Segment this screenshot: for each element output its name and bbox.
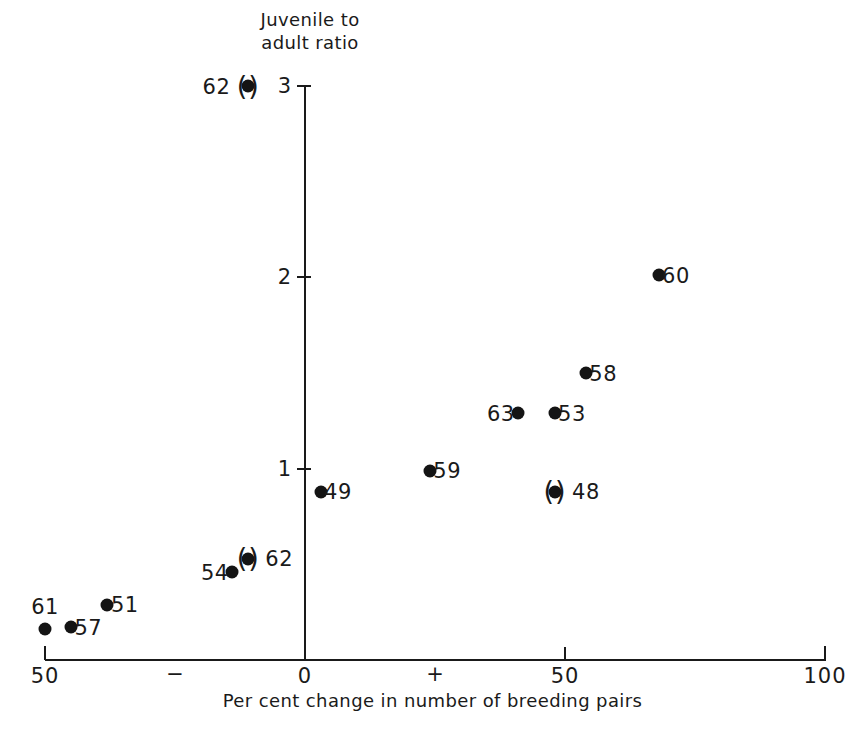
scatter-plot-figure: Juvenile to adult ratio ()62605863535949… xyxy=(0,0,865,735)
y-axis-tick-label: 2 xyxy=(270,265,292,289)
data-point: 58 xyxy=(579,367,592,380)
data-point: ()62 xyxy=(241,80,254,93)
close-paren-glyph: ) xyxy=(555,478,566,505)
data-point-label: 49 xyxy=(324,480,352,504)
y-axis-tick xyxy=(297,468,311,470)
y-axis-title-line1: Juvenile to xyxy=(215,8,405,31)
data-point-label: 63 xyxy=(487,401,515,425)
data-point-marker xyxy=(39,623,52,636)
y-axis-tick xyxy=(297,276,311,278)
data-point: 53 xyxy=(548,407,561,420)
data-point: 59 xyxy=(423,464,436,477)
y-axis-tick-label: 3 xyxy=(270,74,292,98)
x-axis-tick-label: 0 xyxy=(298,664,312,688)
data-point: 60 xyxy=(652,269,665,282)
x-axis-title: Per cent change in number of breeding pa… xyxy=(0,690,865,711)
data-point-label: 61 xyxy=(31,595,59,619)
data-point-label: 53 xyxy=(558,401,586,425)
data-point-label: 48 xyxy=(572,480,600,504)
data-point: 63 xyxy=(512,407,525,420)
x-axis-tick-label: 50 xyxy=(551,664,580,688)
x-axis-tick xyxy=(824,646,826,660)
x-axis-sign-label: − xyxy=(166,662,184,686)
data-point-label: 51 xyxy=(111,593,139,617)
y-axis-title: Juvenile to adult ratio xyxy=(215,8,405,54)
data-point-label: 58 xyxy=(589,361,617,385)
close-paren-glyph: ) xyxy=(248,545,259,572)
x-axis-tick xyxy=(304,647,306,660)
open-paren-glyph: ( xyxy=(237,72,248,99)
data-point: ()62 xyxy=(241,552,254,565)
data-point-label: 59 xyxy=(433,459,461,483)
x-axis-tick xyxy=(564,647,566,660)
x-axis-tick xyxy=(44,646,46,660)
x-axis-sign-label: + xyxy=(426,662,444,686)
y-axis-line xyxy=(304,85,306,661)
data-point: 61 xyxy=(39,623,52,636)
data-point-label: 57 xyxy=(75,615,103,639)
y-axis-tick xyxy=(297,85,311,87)
y-axis-tick-label: 1 xyxy=(270,457,292,481)
data-point-label: 54 xyxy=(201,560,229,584)
data-point: 57 xyxy=(65,621,78,634)
close-paren-glyph: ) xyxy=(248,72,259,99)
y-axis-title-line2: adult ratio xyxy=(215,31,405,54)
data-point: ()48 xyxy=(548,485,561,498)
open-paren-glyph: ( xyxy=(544,478,555,505)
data-point: 54 xyxy=(226,566,239,579)
data-point-label: 60 xyxy=(662,263,690,287)
data-point: 49 xyxy=(314,485,327,498)
x-axis-tick-label: 50 xyxy=(31,664,60,688)
data-point: 51 xyxy=(101,598,114,611)
data-point-label: 62 xyxy=(265,547,293,571)
x-axis-tick-label: 100 xyxy=(803,664,846,688)
data-point-label: 62 xyxy=(203,74,231,98)
x-axis-line xyxy=(45,659,826,661)
